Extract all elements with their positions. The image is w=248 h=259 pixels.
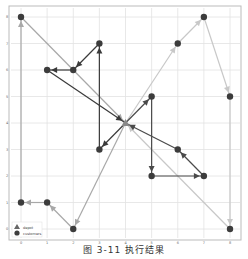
customer-marker bbox=[18, 14, 24, 20]
y-tick-label: 4 bbox=[6, 121, 9, 125]
y-tick-label: 3 bbox=[6, 148, 8, 152]
legend-customers-icon bbox=[14, 230, 19, 235]
customer-marker bbox=[44, 199, 50, 205]
customer-marker bbox=[18, 199, 24, 205]
y-tick-label: 2 bbox=[6, 174, 8, 178]
customer-marker bbox=[227, 226, 233, 232]
customer-marker bbox=[201, 14, 207, 20]
y-tick-label: 5 bbox=[6, 95, 8, 99]
y-tick-label: 6 bbox=[6, 68, 8, 72]
customer-marker bbox=[70, 67, 76, 73]
legend-label-depot: depot bbox=[23, 226, 34, 230]
customer-marker bbox=[175, 146, 181, 152]
y-tick-label: 1 bbox=[6, 201, 8, 205]
customer-marker bbox=[148, 173, 154, 179]
chart-figure: 012345678012345678depotcustomers 图 3-11 … bbox=[0, 0, 248, 259]
y-tick-label: 7 bbox=[6, 42, 8, 46]
customer-marker bbox=[44, 67, 50, 73]
figure-caption: 图 3-11 执行结果 bbox=[0, 243, 248, 256]
customer-marker bbox=[96, 146, 102, 152]
customer-marker bbox=[96, 40, 102, 46]
customer-marker bbox=[70, 226, 76, 232]
y-tick-label: 0 bbox=[6, 227, 8, 231]
legend: depotcustomers bbox=[12, 222, 42, 237]
customer-marker bbox=[175, 40, 181, 46]
customer-marker bbox=[148, 93, 154, 99]
route-plot: 012345678012345678depotcustomers bbox=[0, 0, 248, 245]
y-tick-label: 8 bbox=[6, 15, 8, 19]
customer-marker bbox=[201, 173, 207, 179]
customer-marker bbox=[227, 93, 233, 99]
legend-label-customers: customers bbox=[23, 232, 41, 236]
